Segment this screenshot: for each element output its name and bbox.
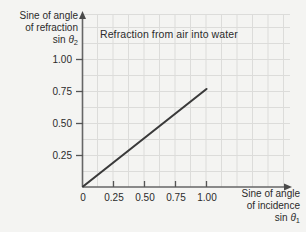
x-axis-label-sin: sin (275, 212, 291, 223)
y-tick-label-0-75: 0.75 (38, 86, 72, 98)
y-tick-label-0-50: 0.50 (38, 118, 72, 130)
y-tick-label-1-00: 1.00 (38, 54, 72, 66)
x-tick-label-0-25: 0.25 (97, 192, 131, 204)
y-axis-label-line1: Sine of angle (0, 10, 78, 22)
x-axis-label-line3: sin θ1 (196, 212, 300, 225)
y-axis (79, 11, 86, 187)
x-tick-label-0-75: 0.75 (159, 192, 193, 204)
y-axis-label-line3: sin θ2 (0, 34, 78, 47)
x-axis-label-theta: θ (290, 212, 295, 223)
y-axis-label: Sine of angle of refraction sin θ2 (0, 10, 78, 47)
refraction-graph-figure: Refraction from air into water Sine of a… (0, 0, 306, 232)
chart-title: Refraction from air into water (100, 28, 238, 40)
y-axis-label-subscript: 2 (74, 38, 78, 47)
x-tick-label-0: 0 (66, 192, 100, 204)
y-tick-label-0-25: 0.25 (38, 150, 72, 162)
y-axis-label-line2: of refraction (0, 22, 78, 34)
x-tick-label-0-50: 0.50 (128, 192, 162, 204)
x-tick-label-1-00: 1.00 (190, 192, 224, 204)
x-axis-label-subscript: 1 (296, 216, 300, 225)
y-axis-label-sin: sin (53, 34, 69, 45)
y-axis-label-theta: θ (68, 34, 73, 45)
